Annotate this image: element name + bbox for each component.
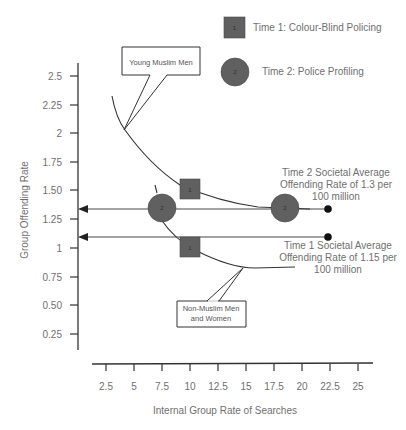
y-tick-label: 2.25 [43, 100, 63, 111]
y-tick-labels: 2.5 2.25 2 1.75 1.50 1.25 1 0.75 0.50 0.… [43, 71, 63, 340]
y-tick-label: 0.25 [43, 329, 63, 340]
svg-text:Offending Rate of 1.3 per: Offending Rate of 1.3 per [280, 179, 393, 190]
time2-marker-young-muslim: 2 [271, 194, 299, 222]
callout-label: and Women [191, 314, 231, 323]
endpoint-dot [324, 205, 332, 213]
arrowhead-left-icon [78, 233, 88, 241]
young-muslim-men-curve [112, 96, 310, 209]
x-tick-label: 22.5 [320, 381, 340, 392]
y-tick-label: 1.50 [43, 185, 63, 196]
x-tick-label: 20 [296, 381, 308, 392]
y-tick-label: 2 [56, 128, 62, 139]
x-tick-label: 15 [240, 381, 252, 392]
callout-young-muslim-men: Young Muslim Men [122, 47, 200, 130]
svg-text:Time 2 Societal Average: Time 2 Societal Average [282, 167, 390, 178]
legend: 1 Time 1: Colour-Blind Policing 2 Time 2… [221, 17, 382, 86]
callout-label: Non-Muslim Men [183, 304, 240, 313]
legend-label: Time 2: Police Profiling [262, 66, 364, 77]
y-axis-label: Group Offending Rate [19, 161, 30, 259]
y-tick-label: 2.5 [48, 71, 62, 82]
y-ticks [70, 76, 78, 334]
time2-marker-non-muslim: 2 [148, 194, 176, 222]
non-muslim-curve [155, 185, 295, 268]
x-axis [92, 363, 373, 364]
time1-marker-non-muslim: 1 [180, 237, 200, 257]
svg-text:100 million: 100 million [312, 191, 360, 202]
y-tick-label: 0.50 [43, 300, 63, 311]
x-tick-label: 5 [131, 381, 137, 392]
svg-text:100 million: 100 million [314, 264, 362, 275]
x-tick-label: 17.5 [264, 381, 284, 392]
x-tick-label: 10 [184, 381, 196, 392]
x-axis-label: Internal Group Rate of Searches [153, 405, 297, 416]
time2-average-annotation: Time 2 Societal Average Offending Rate o… [280, 167, 393, 202]
time1-marker-young-muslim: 1 [180, 179, 200, 199]
legend-item-time1: 1 Time 1: Colour-Blind Policing [224, 17, 382, 38]
x-tick-label: 12.5 [208, 381, 228, 392]
callout-non-muslim: Non-Muslim Men and Women [177, 268, 246, 327]
chart-canvas: 2.5 2.25 2 1.75 1.50 1.25 1 0.75 0.50 0.… [0, 0, 406, 430]
svg-text:Time 1 Societal Average: Time 1 Societal Average [284, 240, 392, 251]
y-tick-label: 1 [56, 243, 62, 254]
svg-text:Offending Rate of 1.15 per: Offending Rate of 1.15 per [279, 252, 397, 263]
x-ticks [106, 364, 358, 371]
legend-label: Time 1: Colour-Blind Policing [253, 22, 382, 33]
callout-label: Young Muslim Men [129, 58, 193, 67]
arrowhead-left-icon [78, 205, 88, 213]
x-tick-label: 25 [352, 381, 364, 392]
x-tick-label: 2.5 [99, 381, 113, 392]
y-tick-label: 1.75 [43, 157, 63, 168]
time1-average-annotation: Time 1 Societal Average Offending Rate o… [279, 240, 397, 275]
y-tick-label: 0.75 [43, 272, 63, 283]
legend-item-time2: 2 Time 2: Police Profiling [221, 58, 364, 86]
y-tick-label: 1.25 [43, 214, 63, 225]
x-tick-label: 7.5 [155, 381, 169, 392]
x-tick-labels: 2.5 5 7.5 10 12.5 15 17.5 20 22.5 25 [99, 381, 364, 392]
